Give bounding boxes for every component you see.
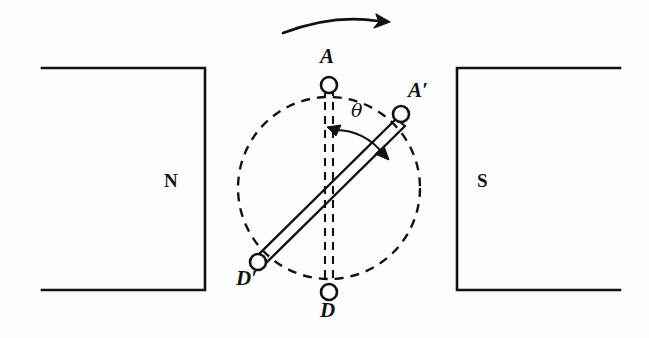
physics-diagram: N S A A′ D D′ θ xyxy=(0,0,649,338)
north-pole-outline xyxy=(42,68,205,290)
coil-bar-upper-edge xyxy=(254,119,396,259)
point-label-a: A xyxy=(320,44,334,69)
point-label-d: D xyxy=(320,298,335,323)
south-pole-label: S xyxy=(477,170,488,192)
angle-theta-label: θ xyxy=(351,99,362,121)
rotation-arrow-arc xyxy=(283,19,378,33)
north-pole-piece xyxy=(42,68,205,290)
theta-arc-line xyxy=(335,130,383,154)
joint-A xyxy=(321,77,337,93)
point-label-d-prime: D′ xyxy=(236,266,257,291)
point-label-a-prime: A′ xyxy=(408,78,428,103)
rotation-arrow-icon xyxy=(283,14,390,33)
dashed-circle xyxy=(238,97,420,279)
coil-bar-ApDp xyxy=(254,119,405,266)
theta-arrowhead-left xyxy=(327,125,341,136)
joint-A-prime-circle xyxy=(393,106,409,122)
coil-path-circle xyxy=(238,97,420,279)
north-pole-label: N xyxy=(164,170,178,192)
joint-A-prime xyxy=(393,106,409,122)
joint-A-circle xyxy=(321,77,337,93)
angle-theta-arc xyxy=(327,125,389,160)
